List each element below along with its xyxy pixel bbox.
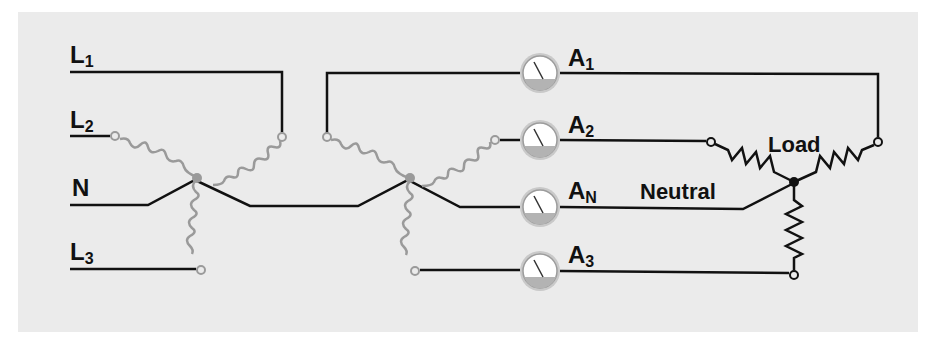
label-a2: A2 — [568, 111, 594, 140]
load-terminal-c — [790, 271, 798, 279]
label-a3: A3 — [568, 241, 594, 270]
label-load: Load — [768, 132, 821, 157]
ammeter-a2-icon — [520, 120, 560, 160]
label-an: AN — [568, 177, 597, 206]
terminal-l3 — [197, 266, 205, 274]
label-neutral: Neutral — [640, 179, 716, 204]
ammeter-a1-icon — [520, 53, 560, 93]
label-n: N — [72, 174, 89, 201]
label-l2: L2 — [70, 106, 94, 135]
source-wires — [70, 72, 878, 273]
wiring-diagram: L1 L2 N L3 A1 A2 AN A3 Load Neutral — [0, 0, 936, 342]
terminal-right-b — [491, 136, 499, 144]
ammeter-a3-icon — [520, 251, 560, 291]
left-neutral-node — [192, 173, 202, 183]
terminal-l1 — [278, 133, 286, 141]
load-resistors — [715, 144, 874, 270]
left-transformer-coils — [120, 139, 280, 255]
load-neutral-node — [789, 177, 799, 187]
ammeter-an-icon — [520, 187, 560, 227]
terminal-l2 — [111, 132, 119, 140]
terminal-right-c — [411, 267, 419, 275]
terminal-right-a — [323, 133, 331, 141]
right-transformer-coils — [331, 140, 490, 256]
label-a1: A1 — [568, 44, 594, 73]
label-l3: L3 — [70, 238, 94, 267]
load-terminal-a — [707, 138, 715, 146]
load-terminal-b — [874, 138, 882, 146]
right-neutral-node — [405, 173, 415, 183]
label-l1: L1 — [70, 41, 94, 70]
